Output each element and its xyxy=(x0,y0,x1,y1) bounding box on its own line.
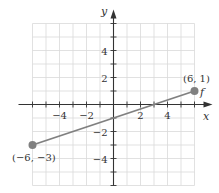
y-tick-label: 2 xyxy=(101,73,107,84)
y-axis-label: y xyxy=(100,5,108,18)
y-tick-label: 4 xyxy=(101,46,107,57)
x-axis-label: x xyxy=(203,110,210,123)
y-tick-label: −2 xyxy=(93,127,108,138)
x-tick-label: 2 xyxy=(137,110,143,121)
endpoint-label-right: (6, 1) xyxy=(183,73,210,84)
function-label: f xyxy=(199,86,206,99)
endpoint-label-left: (−6, −3) xyxy=(12,152,56,163)
coordinate-plane: −4−22442−2−4 x y f (−6, −3) (6, 1) xyxy=(0,0,219,193)
y-tick-label: −4 xyxy=(93,154,108,165)
x-tick-label: −2 xyxy=(79,110,94,121)
x-tick-label: −4 xyxy=(52,110,67,121)
endpoint-dot xyxy=(29,141,37,149)
x-tick-label: 4 xyxy=(164,110,170,121)
endpoint-dot xyxy=(191,87,199,95)
